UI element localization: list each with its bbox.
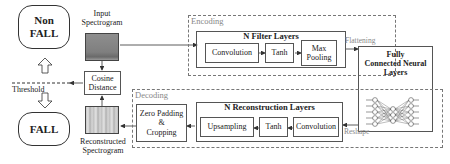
- encoding-convolution-block: Convolution: [205, 43, 259, 63]
- upsampling-block: Upsampling: [200, 117, 254, 137]
- encoding-title: Encoding: [191, 17, 224, 27]
- max-pooling-line2: Pooling: [307, 53, 332, 62]
- max-pooling-block: Max Pooling: [301, 40, 337, 66]
- non-fall-label-line2: FALL: [30, 27, 59, 40]
- cosine-distance-box: Cosine Distance: [84, 71, 121, 95]
- fully-connected-label: Fully Connected Neural Layers: [358, 50, 433, 78]
- zero-padding-line3: Cropping: [146, 128, 176, 137]
- cosine-line2: Distance: [89, 83, 117, 92]
- flattening-label: Flattening: [345, 37, 375, 46]
- input-label-line1: Input: [78, 9, 126, 18]
- reconstructed-spectrogram-label: Reconstructed Spectrogram: [72, 137, 134, 155]
- fc-line3: Layers: [358, 68, 433, 77]
- fall-label: FALL: [30, 123, 59, 136]
- decoding-tanh-block: Tanh: [259, 117, 288, 137]
- decoding-convolution-label: Convolution: [296, 122, 336, 131]
- zero-padding-line1: Zero Padding: [140, 109, 183, 118]
- non-fall-label-line1: Non: [34, 14, 54, 27]
- input-spectrogram-label: Input Spectrogram: [78, 9, 126, 27]
- zero-padding-line2: &: [158, 118, 164, 127]
- reconstructed-label-line2: Spectrogram: [72, 146, 134, 155]
- reconstruction-layers-title: N Reconstruction Layers: [196, 103, 343, 113]
- fc-line2: Connected Neural: [358, 59, 433, 68]
- cosine-line1: Cosine: [91, 74, 113, 83]
- threshold-label: Threshold: [12, 85, 44, 94]
- reconstructed-spectrogram-image: [85, 106, 119, 134]
- encoding-tanh-label: Tanh: [272, 48, 288, 57]
- upsampling-label: Upsampling: [207, 122, 246, 131]
- fc-line1: Fully: [358, 50, 433, 59]
- decoding-convolution-block: Convolution: [293, 117, 339, 137]
- reconstructed-label-line1: Reconstructed: [72, 137, 134, 146]
- down-arrow-icon: [38, 93, 52, 108]
- max-pooling-line1: Max: [312, 44, 327, 53]
- non-fall-output: Non FALL: [18, 5, 70, 49]
- up-arrow-icon: [38, 58, 52, 73]
- decoding-tanh-label: Tanh: [266, 122, 282, 131]
- decoding-title: Decoding: [135, 91, 168, 101]
- encoding-tanh-block: Tanh: [265, 43, 294, 63]
- input-label-line2: Spectrogram: [78, 18, 126, 27]
- zero-padding-cropping-block: Zero Padding & Cropping: [136, 104, 187, 142]
- input-spectrogram-image: [85, 33, 119, 61]
- fall-output: FALL: [18, 112, 70, 146]
- encoding-convolution-label: Convolution: [212, 48, 252, 57]
